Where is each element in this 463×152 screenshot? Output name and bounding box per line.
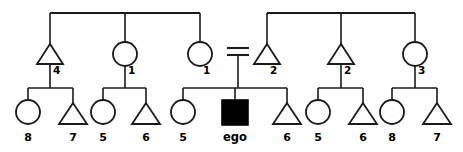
person-g3-11[interactable]: 7 — [423, 103, 451, 144]
triangle-symbol — [37, 44, 63, 64]
person-label: 7 — [433, 131, 441, 144]
circle-symbol — [306, 100, 330, 124]
person-g2-e[interactable]: 2 — [328, 44, 354, 88]
person-g3-9[interactable]: 6 — [349, 103, 377, 144]
person-g3-8[interactable]: 5 — [306, 100, 330, 144]
person-label: 8 — [24, 131, 32, 144]
pedigree-diagram: 4 1 1 2 2 3 — [0, 0, 463, 152]
generation3-sibling-bar-g2f — [392, 88, 437, 103]
generation3-sibling-bar-g2b — [103, 88, 146, 103]
generation1-sibling-bar-right — [267, 13, 415, 44]
person-g3-5[interactable]: 5 — [171, 100, 195, 144]
triangle-symbol — [59, 103, 87, 124]
person-label: 5 — [99, 131, 107, 144]
union-marriage-symbol — [227, 48, 249, 88]
circle-symbol — [171, 100, 195, 124]
person-label: 3 — [418, 64, 425, 76]
person-label: 2 — [344, 64, 351, 76]
ego-label: ego — [223, 130, 247, 144]
triangle-symbol — [349, 103, 377, 124]
person-label: 5 — [314, 131, 322, 144]
person-label: 1 — [128, 64, 135, 76]
circle-symbol — [113, 42, 137, 66]
person-ego[interactable]: ego — [222, 100, 248, 144]
pedigree-canvas: 4 1 1 2 2 3 — [0, 0, 463, 152]
person-g3-10[interactable]: 8 — [380, 100, 404, 144]
generation3-sibling-bar-g2a — [28, 88, 73, 103]
person-label: 6 — [142, 131, 150, 144]
person-g2-a[interactable]: 4 — [37, 44, 63, 88]
person-g3-2[interactable]: 7 — [59, 103, 87, 144]
person-g2-c[interactable]: 1 — [188, 42, 212, 76]
person-g3-7[interactable]: 6 — [273, 103, 301, 144]
triangle-symbol — [254, 44, 280, 64]
circle-symbol — [403, 42, 427, 66]
square-symbol-filled — [222, 100, 248, 125]
person-g3-1[interactable]: 8 — [16, 100, 40, 144]
person-g2-d[interactable]: 2 — [254, 44, 280, 76]
person-g2-f[interactable]: 3 — [403, 42, 427, 88]
person-label: 6 — [359, 131, 367, 144]
person-label: 4 — [53, 64, 60, 76]
person-label: 6 — [283, 131, 291, 144]
generation1-sibling-bar-left — [50, 13, 200, 44]
triangle-symbol — [423, 103, 451, 124]
triangle-symbol — [273, 103, 301, 124]
circle-symbol — [91, 100, 115, 124]
person-label: 1 — [203, 64, 210, 76]
person-label: 8 — [388, 131, 396, 144]
person-g3-4[interactable]: 6 — [132, 103, 160, 144]
person-g2-b[interactable]: 1 — [113, 42, 137, 88]
person-label: 2 — [270, 64, 277, 76]
circle-symbol — [16, 100, 40, 124]
generation3-sibling-bar-g2e — [318, 88, 363, 103]
person-label: 7 — [69, 131, 77, 144]
triangle-symbol — [328, 44, 354, 64]
triangle-symbol — [132, 103, 160, 124]
circle-symbol — [188, 42, 212, 66]
person-g3-3[interactable]: 5 — [91, 100, 115, 144]
circle-symbol — [380, 100, 404, 124]
person-label: 5 — [179, 131, 187, 144]
